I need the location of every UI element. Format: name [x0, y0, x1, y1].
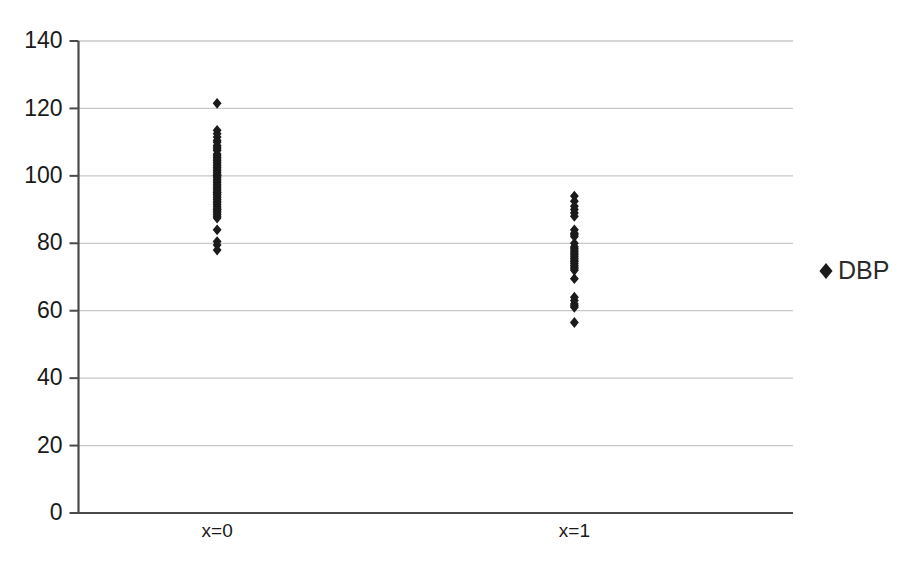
- y-tick-label: 20: [37, 432, 63, 458]
- x-tick-label: x=1: [559, 520, 590, 541]
- legend-entry-label: DBP: [838, 256, 889, 284]
- chart-canvas: 020406080100120140 x=0x=1 DBP: [0, 0, 914, 568]
- y-tick-label: 60: [37, 297, 63, 323]
- y-tick-label: 100: [24, 162, 62, 188]
- y-tick-label: 40: [37, 364, 63, 390]
- y-tick-label: 0: [50, 499, 63, 525]
- y-tick-label: 120: [24, 95, 62, 121]
- scatter-chart: 020406080100120140 x=0x=1 DBP: [0, 0, 914, 568]
- chart-background: [0, 0, 914, 568]
- y-tick-label: 140: [24, 27, 62, 53]
- x-tick-label: x=0: [202, 520, 233, 541]
- y-tick-label: 80: [37, 229, 63, 255]
